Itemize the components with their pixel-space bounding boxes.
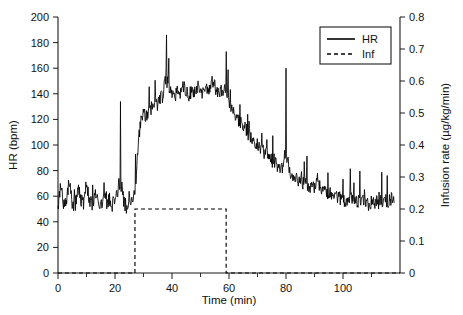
x-axis-tick-label: 20 (109, 282, 121, 294)
y-axis-left-tick-label: 180 (31, 37, 49, 49)
chart-figure: 020406080100120140160180200 00.10.20.30.… (0, 0, 463, 315)
y-axis-right-tick-label: 0.6 (409, 75, 424, 87)
legend-box (320, 27, 391, 64)
series-line-inf (58, 209, 400, 273)
y-axis-left-tick-label: 100 (31, 139, 49, 151)
x-axis-tick-label: 60 (223, 282, 235, 294)
y-axis-right-tick-label: 0.5 (409, 107, 424, 119)
y-axis-right-title: Infusion rate (µg/kg/min) (439, 83, 451, 207)
legend-label-inf: Inf (362, 48, 375, 60)
x-axis-tick-label: 0 (55, 282, 61, 294)
chart-canvas: 020406080100120140160180200 00.10.20.30.… (0, 0, 463, 315)
y-axis-left-tick-label: 0 (43, 267, 49, 279)
y-axis-right-tick-label: 0.2 (409, 203, 424, 215)
y-axis-left-tick-label: 200 (31, 11, 49, 23)
y-axis-left-tick-label: 40 (37, 216, 49, 228)
y-axis-left-tick-label: 120 (31, 113, 49, 125)
x-axis-tick-label: 40 (166, 282, 178, 294)
chart-legend: HR Inf (320, 27, 391, 64)
x-axis-title: Time (min) (202, 294, 257, 306)
legend-label-hr: HR (362, 33, 378, 45)
y-axis-right-tick-label: 0.4 (409, 139, 424, 151)
x-axis-tick-label: 80 (280, 282, 292, 294)
y-axis-left-title: HR (bpm) (7, 120, 19, 170)
y-axis-left-tick-label: 160 (31, 62, 49, 74)
y-axis-right-tick-label: 0.3 (409, 171, 424, 183)
y-axis-right-tick-label: 0.8 (409, 11, 424, 23)
y-axis-right-tick-label: 0.7 (409, 43, 424, 55)
y-axis-left-tick-label: 140 (31, 88, 49, 100)
y-axis-left-ticks: 020406080100120140160180200 (31, 11, 58, 279)
y-axis-left-tick-label: 60 (37, 190, 49, 202)
y-axis-right-tick-label: 0.1 (409, 235, 424, 247)
y-axis-left-tick-label: 80 (37, 165, 49, 177)
y-axis-left-tick-label: 20 (37, 241, 49, 253)
x-axis-ticks: 020406080100 (55, 273, 372, 294)
x-axis-tick-label: 100 (334, 282, 352, 294)
y-axis-right-ticks: 00.10.20.30.40.50.60.70.8 (400, 11, 424, 279)
y-axis-right-tick-label: 0 (409, 267, 415, 279)
